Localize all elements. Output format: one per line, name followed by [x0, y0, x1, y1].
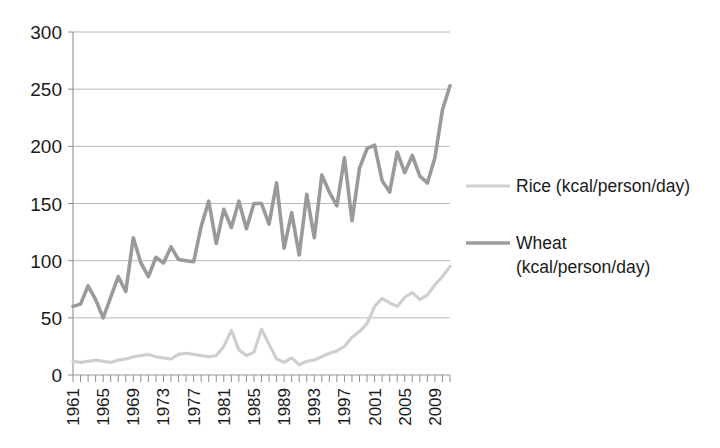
x-tick-label: 1961 [64, 388, 83, 426]
series-line-wheat [73, 86, 450, 318]
x-tick-labels: 1961196519691973197719811985198919931997… [64, 388, 445, 426]
y-axis [68, 32, 73, 375]
x-tick-label: 1973 [154, 388, 173, 426]
x-tick-label: 1989 [275, 388, 294, 426]
x-axis [73, 375, 450, 382]
x-tick-label: 1993 [305, 388, 324, 426]
legend-label-wheat-line2: (kcal/person/day) [516, 257, 650, 277]
x-tick-label: 1977 [185, 388, 204, 426]
x-tick-label: 2001 [366, 388, 385, 426]
chart-canvas: 050100150200250300 196119651969197319771… [0, 0, 720, 448]
y-tick-label: 0 [51, 365, 62, 386]
x-tick-label: 1985 [245, 388, 264, 426]
x-tick-label: 1969 [124, 388, 143, 426]
x-tick-label: 1997 [335, 388, 354, 426]
line-chart: 050100150200250300 196119651969197319771… [0, 0, 720, 448]
x-tick-label: 2005 [396, 388, 415, 426]
legend-label-wheat: Wheat [516, 233, 567, 253]
y-tick-label: 50 [41, 308, 62, 329]
series-group [73, 86, 450, 365]
y-tick-labels: 050100150200250300 [30, 22, 62, 386]
y-tick-label: 250 [30, 79, 62, 100]
y-tick-label: 150 [30, 194, 62, 215]
y-tick-label: 300 [30, 22, 62, 43]
legend: Rice (kcal/person/day)Wheat(kcal/person/… [466, 176, 690, 277]
x-tick-label: 1981 [215, 388, 234, 426]
series-line-rice [73, 266, 450, 364]
legend-label-rice: Rice (kcal/person/day) [516, 176, 690, 196]
y-tick-label: 200 [30, 136, 62, 157]
y-tick-label: 100 [30, 251, 62, 272]
x-tick-label: 1965 [94, 388, 113, 426]
x-tick-label: 2009 [426, 388, 445, 426]
